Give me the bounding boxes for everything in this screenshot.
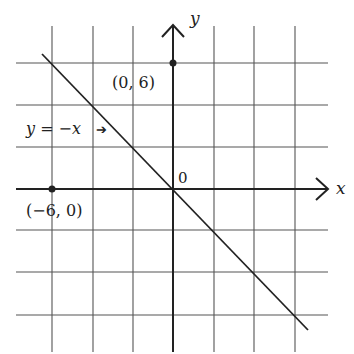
point-label-0-6: (0, 6) [112,73,155,92]
x-axis-label: x [336,178,346,198]
point-neg6-0 [49,186,56,193]
point-0-6 [170,60,177,67]
point-label-neg6-0: (−6, 0) [26,201,82,220]
y-axis-label: y [189,8,200,28]
coordinate-plane: y x 0 (0, 6) (−6, 0) y = −x ➔ [0,0,354,354]
origin-label: 0 [178,169,188,187]
pointer-arrow-icon: ➔ [96,122,107,137]
line-equation-label: y = −x [25,119,81,138]
line-y-equals-neg-x [42,54,308,330]
